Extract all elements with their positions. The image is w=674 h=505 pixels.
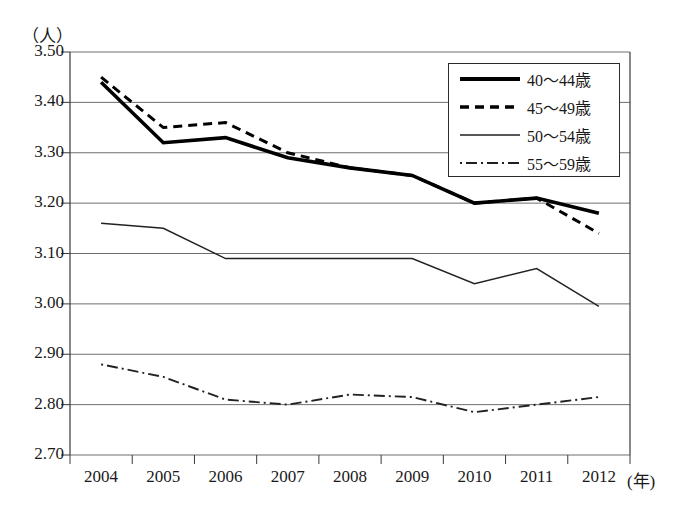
chart-container: （人） 3.503.403.303.203.103.002.902.802.70…: [0, 0, 674, 505]
legend-item-40-44[interactable]: 40〜44歳: [449, 65, 621, 93]
x-tick-label: 2012: [568, 467, 630, 487]
legend-label-50-54: 50〜54歳: [527, 123, 591, 147]
y-tick-label: 3.50: [8, 41, 64, 61]
legend-item-55-59[interactable]: 55〜59歳: [449, 149, 621, 177]
x-tick-label: 2006: [195, 467, 257, 487]
y-tick-label: 3.30: [8, 142, 64, 162]
legend-label-55-59: 55〜59歳: [527, 151, 591, 175]
x-axis-unit-label: (年): [627, 467, 655, 492]
y-tick-label: 3.40: [8, 91, 64, 111]
x-tick-label: 2010: [443, 467, 505, 487]
series-line-2: [101, 223, 599, 306]
legend-swatch-thick-solid-icon: [459, 72, 521, 86]
legend-item-50-54[interactable]: 50〜54歳: [449, 121, 621, 149]
legend-swatch-thin-solid-icon: [459, 128, 521, 142]
y-tick-label: 3.20: [8, 192, 64, 212]
y-tick-label: 3.00: [8, 293, 64, 313]
x-tick-label: 2004: [70, 467, 132, 487]
y-tick-label: 3.10: [8, 243, 64, 263]
y-tick-label: 2.80: [8, 394, 64, 414]
legend-swatch-dash-dot-icon: [459, 156, 521, 170]
x-tick-label: 2008: [319, 467, 381, 487]
x-tick-label: 2009: [381, 467, 443, 487]
legend-swatch-dashed-icon: [459, 100, 521, 114]
legend-label-45-49: 45〜49歳: [527, 95, 591, 119]
x-tick-label: 2005: [132, 467, 194, 487]
legend-label-40-44: 40〜44歳: [527, 67, 591, 91]
y-tick-label: 2.90: [8, 343, 64, 363]
x-tick-label: 2007: [257, 467, 319, 487]
y-tick-label: 2.70: [8, 444, 64, 464]
x-tick-label: 2011: [506, 467, 568, 487]
chart-legend: 40〜44歳 45〜49歳 50〜54歳 55〜59歳: [448, 63, 620, 177]
legend-item-45-49[interactable]: 45〜49歳: [449, 93, 621, 121]
